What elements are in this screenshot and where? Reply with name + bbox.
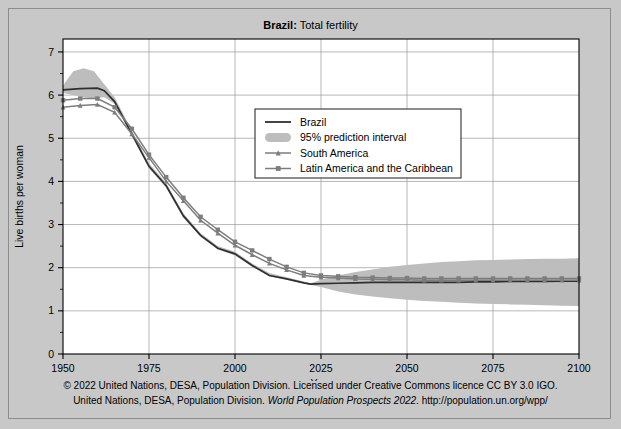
series-marker	[198, 215, 202, 219]
series-marker	[491, 276, 495, 280]
series-marker	[525, 276, 529, 280]
series-marker	[181, 196, 185, 200]
series-marker	[130, 127, 134, 131]
x-axis-tick-label: 1975	[137, 362, 161, 374]
x-axis-tick-label: 2000	[223, 362, 247, 374]
footer-line-1: © 2022 United Nations, DESA, Population …	[9, 378, 612, 393]
legend-item-label-4: Latin America and the Caribbean	[300, 162, 453, 174]
legend-item-label-1: Brazil	[300, 116, 326, 128]
series-marker	[319, 273, 323, 277]
y-axis-tick-label: 1	[48, 304, 54, 316]
x-axis-tick-label: 2025	[309, 362, 333, 374]
y-axis-tick-label: 0	[48, 348, 54, 360]
legend-marker-square	[276, 166, 281, 171]
y-axis-tick-label: 2	[48, 261, 54, 273]
legend-item-label-2: 95% prediction interval	[300, 131, 406, 143]
x-axis-tick-label: 2075	[481, 362, 505, 374]
series-marker	[422, 276, 426, 280]
series-marker	[474, 276, 478, 280]
series-marker	[284, 265, 288, 269]
series-marker	[95, 96, 99, 100]
series-marker	[78, 96, 82, 100]
x-axis-tick-label: 2100	[567, 362, 591, 374]
series-marker	[456, 276, 460, 280]
x-axis-tick-label: 1950	[51, 362, 75, 374]
chart-title-indicator: Total fertility	[297, 19, 358, 31]
legend-item-label-3: South America	[300, 147, 368, 159]
y-axis-tick-label: 3	[48, 218, 54, 230]
y-axis-tick-label: 4	[48, 175, 54, 187]
y-axis-tick-label: 6	[48, 89, 54, 101]
chart-title-country: Brazil:	[263, 19, 297, 31]
footer-line-2: United Nations, DESA, Population Divisio…	[9, 393, 612, 408]
series-marker	[370, 275, 374, 279]
figure-panel: Brazil: Total fertility 0123456719501975…	[8, 8, 611, 419]
legend-marker-band	[265, 133, 291, 142]
series-marker	[302, 271, 306, 275]
series-marker	[353, 275, 357, 279]
footer-source: United Nations, DESA, Population Divisio…	[73, 395, 268, 406]
series-marker	[560, 276, 564, 280]
y-axis-tick-label: 5	[48, 132, 54, 144]
fertility-chart: 012345671950197520002025205020752100Year…	[9, 31, 612, 381]
chart-title: Brazil: Total fertility	[9, 19, 612, 31]
series-marker	[164, 175, 168, 179]
series-marker	[405, 276, 409, 280]
x-axis-tick-label: 2050	[395, 362, 419, 374]
series-marker	[250, 248, 254, 252]
series-marker	[439, 276, 443, 280]
footer-url: . http://population.un.org/wpp/	[416, 395, 548, 406]
y-axis-label: Live births per woman	[13, 145, 25, 248]
series-marker	[542, 276, 546, 280]
series-marker	[147, 152, 151, 156]
series-marker	[112, 105, 116, 109]
series-marker	[233, 240, 237, 244]
series-marker	[267, 257, 271, 261]
series-marker	[508, 276, 512, 280]
footer-publication: World Population Prospects 2022	[268, 395, 416, 406]
figure-footer: © 2022 United Nations, DESA, Population …	[9, 378, 612, 408]
series-marker	[336, 274, 340, 278]
series-marker	[216, 228, 220, 232]
y-axis-tick-label: 7	[48, 46, 54, 58]
series-marker	[388, 276, 392, 280]
